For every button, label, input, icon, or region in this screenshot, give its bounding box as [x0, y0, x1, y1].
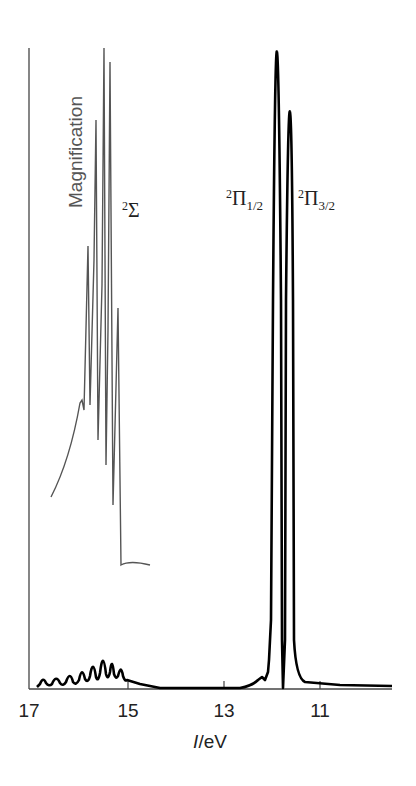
x-tick-label-11: 11	[310, 700, 330, 721]
magnification-label: Magnification	[65, 96, 86, 208]
sigma-state-label: 2Σ	[122, 199, 140, 221]
x-tick-label-13: 13	[213, 700, 234, 721]
x-tick-label-15: 15	[117, 700, 138, 721]
pi-three-half-state-label: 2Π3/2	[298, 187, 335, 213]
x-axis-title: I/eV	[193, 731, 227, 752]
photoelectron-spectrum-chart: 17 15 13 11 I/eV Magnification 2Σ 2Π1/2 …	[0, 0, 416, 786]
x-tick-label-17: 17	[18, 700, 39, 721]
pi-half-state-label: 2Π1/2	[226, 187, 263, 213]
